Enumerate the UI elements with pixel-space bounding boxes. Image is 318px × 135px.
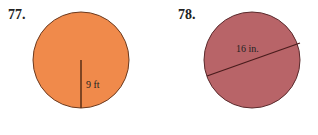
figures: 9 ft 16 in. [0,0,318,135]
circle-figure-77: 9 ft [33,12,129,108]
diameter-label: 16 in. [236,43,259,54]
circle-figure-78: 16 in. [204,12,300,108]
radius-label: 9 ft [86,79,100,90]
